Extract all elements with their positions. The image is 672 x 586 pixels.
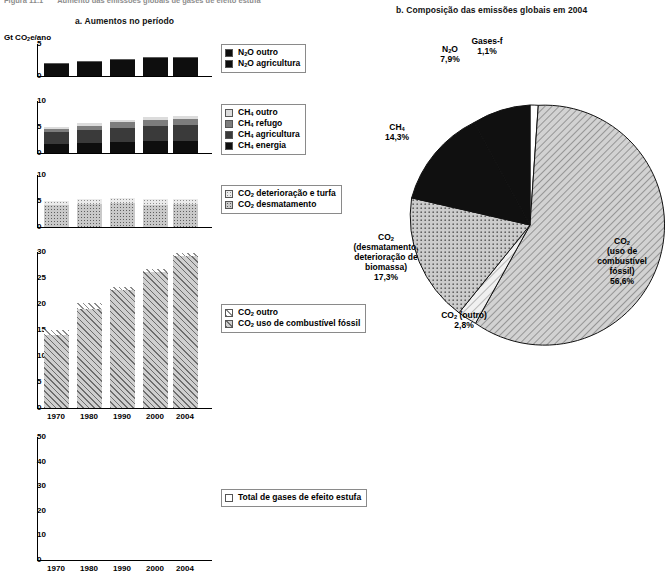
plot-area (38, 44, 213, 76)
segment-n2o-agricultura (143, 62, 168, 76)
legend-item: CH4 outro (225, 107, 300, 118)
legend-total: Total de gases de efeito estufa (221, 489, 367, 507)
segment-ch4-energia (143, 141, 168, 153)
plot-area (38, 175, 213, 227)
pie-label-ch4: CH4 14,3% (385, 122, 409, 142)
legend-co2-land: CO2 deterioração e turfa CO2 desmatament… (221, 185, 342, 214)
panel-b-title: b. Composição das emissões globais em 20… (396, 5, 587, 15)
bar-1980 (77, 303, 102, 408)
x-label-2004: 2004 (176, 412, 194, 421)
x-label-1970: 1970 (47, 564, 65, 573)
legend-label: CO2 uso de combustível fóssil (238, 319, 360, 328)
bar-1990 (110, 59, 135, 76)
legend-label: CH4 refugo (238, 119, 282, 128)
figure-number: Figura 11.1 (4, 0, 43, 5)
bar-2000 (143, 57, 168, 76)
legend-item: CO2 desmatamento (225, 199, 336, 210)
segment-n2o-agricultura (173, 61, 198, 76)
bar-1970 (44, 201, 69, 228)
segment-co2-deterioracao (44, 201, 69, 205)
legend-swatch-co2-desmatamento-icon (225, 201, 233, 209)
pie-label-co2-outro: CO2 (outro) 2,8% (441, 310, 487, 330)
legend-swatch-ch4-agricultura-icon (225, 131, 233, 139)
legend-label: CO2 outro (238, 308, 278, 317)
pie-label-co2-fossil: CO2 (uso de combustível fóssil) 56,6% (597, 236, 647, 286)
x-label-1980: 1980 (80, 564, 98, 573)
segment-co2-desmatamento (77, 204, 102, 227)
chart-co2-fossil: 30 25 20 15 10 5 0 (0, 252, 230, 408)
legend-item: CO2 outro (225, 307, 360, 318)
figure-caption: Figura 11.1Aumento das emissões globais … (4, 0, 261, 5)
legend-item: CH4 agricultura (225, 129, 300, 140)
segment-ch4-refugo (44, 129, 69, 133)
segment-n2o-outro (110, 59, 135, 63)
segment-co2-outro (77, 303, 102, 308)
chart-n2o: 5 0 (0, 44, 230, 76)
segment-n2o-agricultura (77, 65, 102, 77)
chart-total: 50 40 30 20 10 0 1970 1980 1990 2000 200… (0, 437, 230, 560)
segment-ch4-agricultura (143, 126, 168, 141)
segment-n2o-outro (173, 57, 198, 62)
segment-ch4-agricultura (77, 130, 102, 143)
x-axis-line (37, 560, 212, 561)
bar-1970 (44, 127, 69, 154)
legend-swatch-co2-uso-combustivel-icon (225, 320, 233, 328)
legend-ch4: CH4 outro CH4 refugo CH4 agricultura CH4… (221, 104, 306, 155)
chart-ch4: 10 5 0 (0, 101, 230, 153)
segment-co2-desmatamento (143, 205, 168, 227)
bar-1970 (44, 330, 69, 408)
segment-ch4-agricultura (110, 128, 135, 142)
segment-ch4-agricultura (173, 125, 198, 140)
plot-area (38, 437, 213, 560)
x-label-2000: 2000 (146, 564, 164, 573)
x-label-1980: 1980 (80, 412, 98, 421)
segment-n2o-agricultura (110, 63, 135, 76)
legend-swatch-ch4-outro-icon (225, 109, 233, 117)
segment-ch4-outro (143, 117, 168, 120)
segment-co2-fossil (110, 290, 135, 408)
figure-root: Figura 11.1Aumento das emissões globais … (0, 0, 672, 586)
legend-label: N2O agricultura (238, 59, 300, 68)
plot-area (38, 101, 213, 153)
plot-area (38, 252, 213, 408)
legend-swatch-ch4-energia-icon (225, 142, 233, 150)
bar-2004 (173, 199, 198, 227)
bar-1980 (77, 123, 102, 153)
bar-1970 (44, 63, 69, 76)
legend-swatch-total-icon (225, 494, 233, 502)
bar-2000 (143, 117, 168, 153)
x-axis-line (37, 408, 212, 409)
segment-co2-outro (173, 253, 198, 256)
segment-co2-desmatamento (173, 204, 198, 227)
x-label-1990: 1990 (113, 412, 131, 421)
bar-2004 (173, 253, 198, 408)
x-axis-line (37, 153, 212, 154)
bar-2000 (143, 199, 168, 227)
legend-item: Total de gases de efeito estufa (225, 492, 361, 503)
bar-2000 (143, 269, 168, 408)
chart-co2-land: 10 5 0 (0, 175, 230, 227)
legend-item: N2O agricultura (225, 58, 300, 69)
segment-co2-outro (143, 269, 168, 272)
pie-label-co2-desmatamento: CO2 (desmatamento, deterioração de bioma… (353, 232, 418, 282)
pie-label-n2o: N2O 7,9% (440, 44, 459, 64)
legend-item: CH4 refugo (225, 118, 300, 129)
legend-item: CO2 uso de combustível fóssil (225, 318, 360, 329)
segment-n2o-agricultura (44, 66, 69, 76)
bar-2004 (173, 116, 198, 153)
x-label-1990: 1990 (113, 564, 131, 573)
legend-swatch-ch4-refugo-icon (225, 120, 233, 128)
segment-ch4-agricultura (44, 132, 69, 143)
segment-n2o-outro (44, 63, 69, 66)
x-axis-line (37, 227, 212, 228)
y-axis-unit-label: Gt CO2e/ano (4, 33, 51, 42)
legend-item: N2O outro (225, 47, 300, 58)
legend-label: CO2 deterioração e turfa (238, 189, 336, 198)
segment-ch4-outro (173, 116, 198, 119)
segment-co2-fossil (173, 256, 198, 408)
bar-1980 (77, 199, 102, 227)
segment-co2-deterioracao (77, 199, 102, 204)
figure-caption-text: Aumento das emissões globais de gases de… (57, 0, 260, 5)
legend-swatch-co2-outro-icon (225, 309, 233, 317)
legend-label: N2O outro (238, 48, 278, 57)
